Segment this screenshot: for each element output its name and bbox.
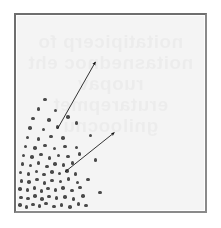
arrow-layer <box>16 15 205 211</box>
arrow-group <box>58 62 115 172</box>
lower-arrow <box>65 133 114 172</box>
plot-frame: noitatipicerp fo noitasnednoc eht ruopav… <box>14 13 207 213</box>
upper-arrow <box>58 62 96 129</box>
figure-root: noitatipicerp fo noitasnednoc eht ruopav… <box>0 0 221 228</box>
